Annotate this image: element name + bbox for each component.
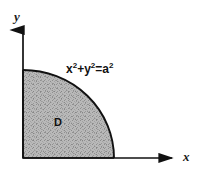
equation-exp-a: 2 [109,61,113,70]
region-D-shape [23,70,114,158]
region-label-D: D [54,117,62,128]
y-axis-label: y [14,10,20,23]
equation-term-x: x [66,62,73,76]
math-figure: y x D x2+y2=a2 [0,0,197,174]
curve-equation-label: x2+y2=a2 [66,63,113,75]
equation-term-a: a [102,62,109,76]
x-axis-label: x [183,150,190,163]
equation-term-y: y [84,62,91,76]
figure-canvas [0,0,197,174]
